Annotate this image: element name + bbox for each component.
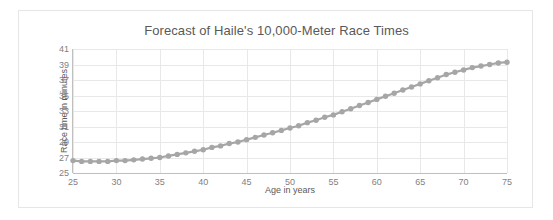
data-point: [209, 145, 214, 150]
data-point: [296, 123, 301, 128]
data-point: [227, 141, 232, 146]
data-point: [504, 59, 509, 64]
data-point: [426, 78, 431, 83]
data-point: [400, 87, 405, 92]
data-point: [391, 90, 396, 95]
data-point: [418, 81, 423, 86]
y-tick-label: 29: [59, 138, 69, 147]
y-tick-label: 35: [59, 91, 69, 100]
chart-container: Forecast of Haile's 10,000-Meter Race Ti…: [18, 10, 533, 208]
data-point: [331, 112, 336, 117]
y-tick-label: 41: [59, 45, 69, 54]
y-tick-label: 27: [59, 153, 69, 162]
data-point: [140, 156, 145, 161]
series-line: [73, 62, 507, 161]
data-point: [357, 103, 362, 108]
y-tick-label: 33: [59, 107, 69, 116]
data-point: [452, 70, 457, 75]
data-point: [114, 158, 119, 163]
data-point: [461, 67, 466, 72]
data-point: [244, 137, 249, 142]
data-point: [496, 60, 501, 65]
data-point: [122, 158, 127, 163]
data-point: [322, 115, 327, 120]
data-point: [305, 120, 310, 125]
data-point: [235, 139, 240, 144]
data-point: [218, 143, 223, 148]
data-point: [487, 62, 492, 67]
data-point: [192, 149, 197, 154]
data-point: [148, 156, 153, 161]
data-point: [383, 94, 388, 99]
data-point: [470, 65, 475, 70]
y-tick-label: 37: [59, 76, 69, 85]
data-point: [88, 159, 93, 164]
data-point: [166, 153, 171, 158]
x-axis-line: [73, 173, 507, 174]
data-point: [253, 135, 258, 140]
data-point: [131, 157, 136, 162]
data-point: [261, 132, 266, 137]
data-point: [183, 150, 188, 155]
data-point: [157, 155, 162, 160]
data-point: [348, 106, 353, 111]
data-series: [73, 49, 507, 173]
data-point: [79, 159, 84, 164]
data-point: [287, 125, 292, 130]
data-point: [96, 159, 101, 164]
data-point: [313, 118, 318, 123]
y-tick-label: 39: [59, 60, 69, 69]
data-point: [409, 84, 414, 89]
y-tick-label: 31: [59, 122, 69, 131]
data-point: [444, 72, 449, 77]
data-point: [105, 159, 110, 164]
data-point: [435, 75, 440, 80]
data-point: [339, 109, 344, 114]
x-axis-title: Age in years: [73, 185, 507, 195]
data-point: [70, 158, 75, 163]
chart-title: Forecast of Haile's 10,000-Meter Race Ti…: [19, 23, 534, 38]
data-point: [201, 147, 206, 152]
data-point: [270, 130, 275, 135]
data-point: [174, 152, 179, 157]
data-point: [374, 97, 379, 102]
data-point: [478, 63, 483, 68]
plot-area: 252729313335373941 253035404550556065707…: [73, 49, 507, 173]
gridline-vertical: [507, 49, 508, 173]
data-point: [365, 100, 370, 105]
data-point: [279, 128, 284, 133]
